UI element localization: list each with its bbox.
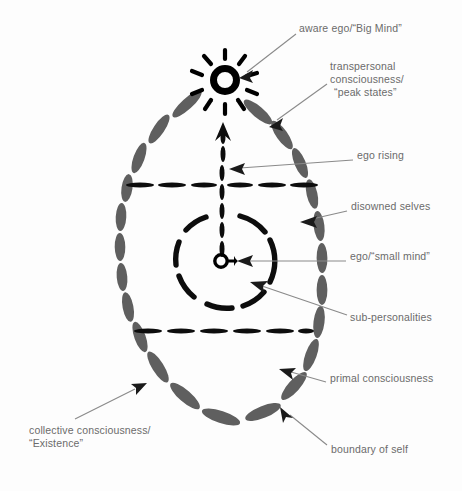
diagram-canvas: aware ego/“Big Mind” transpersonal consc… — [0, 0, 462, 491]
label-collective-line-2: “Existence” — [29, 437, 83, 451]
leader-sub-personalities — [250, 281, 347, 315]
sub-personalities-circle — [176, 216, 275, 308]
leader-collective-consciousness — [75, 383, 147, 419]
label-primal-consciousness: primal consciousness — [330, 372, 433, 386]
divider-line-lower — [134, 328, 314, 333]
label-collective-line-1: collective consciousness/ — [29, 424, 151, 438]
leader-aware-ego — [239, 34, 296, 83]
label-sub-personalities: sub-personalities — [350, 311, 432, 325]
label-ego-small-mind: ego/“small mind” — [350, 250, 430, 264]
leader-ego-small-mind — [237, 255, 346, 267]
leader-ego-rising — [229, 160, 353, 175]
leader-transpersonal — [269, 84, 327, 131]
label-transpersonal-line-1: transpersonal — [330, 60, 396, 74]
label-boundary-of-self: boundary of self — [331, 443, 408, 457]
label-aware-ego: aware ego/“Big Mind” — [299, 22, 402, 36]
leader-boundary-of-self — [280, 407, 327, 445]
label-transpersonal-line-2: consciousness/ — [330, 73, 404, 87]
ego-rising-arrow — [215, 122, 231, 257]
label-ego-rising: ego rising — [357, 149, 404, 163]
ego-small-mind-marker — [215, 255, 237, 267]
label-disowned-selves: disowned selves — [351, 200, 430, 214]
label-transpersonal-line-3: “peak states” — [334, 86, 397, 100]
